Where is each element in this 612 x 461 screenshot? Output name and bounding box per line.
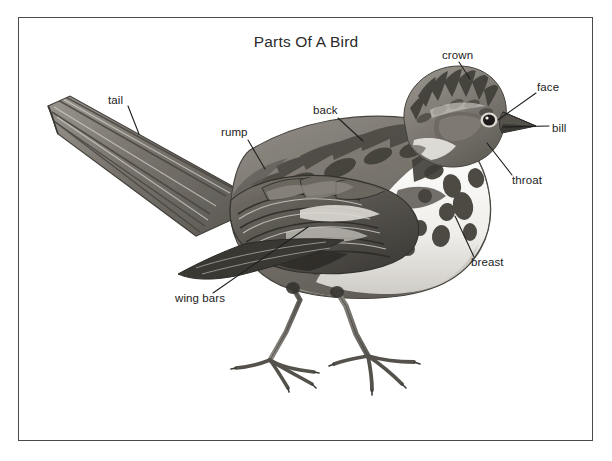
leader-line-throat — [487, 143, 512, 175]
label-rump: rump — [221, 126, 248, 138]
label-breast: breast — [471, 256, 504, 268]
label-wing-bars: wing bars — [175, 292, 225, 304]
far-foot — [236, 360, 314, 388]
figure-canvas: Parts Of A Bird — [0, 0, 612, 461]
bird-eye — [481, 113, 498, 128]
label-bill: bill — [552, 122, 566, 134]
bird-legs — [231, 282, 420, 395]
bird-tail — [48, 96, 240, 236]
label-face: face — [537, 81, 559, 93]
bird-illustration — [0, 0, 612, 461]
label-back: back — [313, 104, 338, 116]
label-tail: tail — [108, 94, 123, 106]
label-crown: crown — [442, 49, 473, 61]
label-throat: throat — [512, 174, 542, 186]
bird-head — [402, 66, 536, 167]
